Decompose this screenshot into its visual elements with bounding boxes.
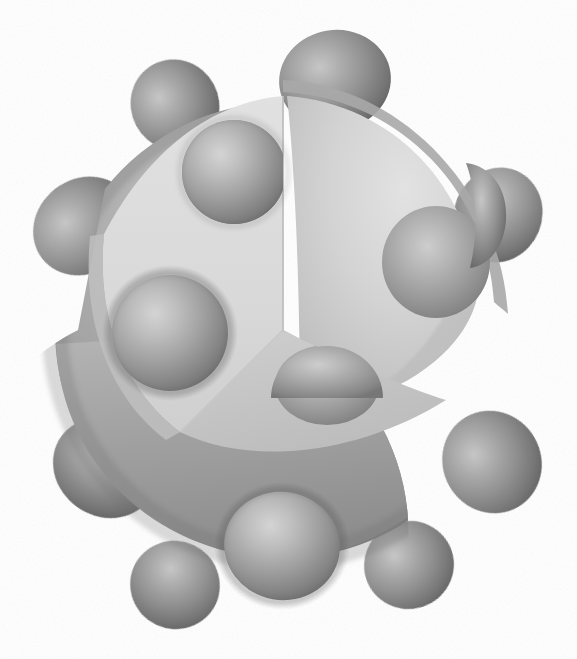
stud-face-upper-left-visible (182, 120, 286, 224)
studded-sphere-cutaway-figure: Grey three-dimensional sphere covered in… (0, 0, 577, 659)
illustration-stage: Grey three-dimensional sphere covered in… (0, 0, 577, 659)
